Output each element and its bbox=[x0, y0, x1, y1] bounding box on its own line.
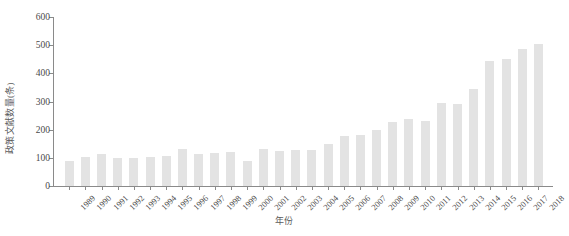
x-axis-tick-mark bbox=[199, 186, 200, 190]
x-axis-tick-label: 1990 bbox=[94, 193, 113, 212]
bar bbox=[291, 150, 300, 186]
x-axis-tick-mark bbox=[247, 186, 248, 190]
bar bbox=[81, 157, 90, 186]
y-axis-tick-label: 200 bbox=[36, 123, 50, 137]
x-axis-tick-label: 1998 bbox=[224, 193, 243, 212]
x-axis-tick-label: 1993 bbox=[143, 193, 162, 212]
x-axis-tick-label: 2005 bbox=[337, 193, 356, 212]
bar bbox=[356, 135, 365, 186]
bar bbox=[340, 136, 349, 186]
x-axis-tick-mark bbox=[506, 186, 507, 190]
plot-area: 0100200300400500600 19891990199119921993… bbox=[53, 17, 553, 186]
x-axis-title: 年份 bbox=[0, 214, 569, 227]
x-axis-tick-mark bbox=[360, 186, 361, 190]
x-axis-tick-label: 1996 bbox=[191, 193, 210, 212]
bar bbox=[162, 156, 171, 186]
x-axis-tick-mark bbox=[118, 186, 119, 190]
bar bbox=[404, 119, 413, 186]
x-axis-tick-mark bbox=[538, 186, 539, 190]
bar bbox=[129, 158, 138, 186]
x-axis-tick-label: 2006 bbox=[353, 193, 372, 212]
x-axis-tick-mark bbox=[441, 186, 442, 190]
x-axis-tick-mark bbox=[490, 186, 491, 190]
x-axis-tick-mark bbox=[458, 186, 459, 190]
bar bbox=[534, 44, 543, 186]
bar bbox=[421, 121, 430, 186]
x-axis-tick-label: 2018 bbox=[547, 193, 566, 212]
y-axis-tick-label: 0 bbox=[45, 179, 50, 193]
bar bbox=[324, 144, 333, 186]
bar-chart-figure: 政策文献数量(条) 0100200300400500600 1989199019… bbox=[0, 0, 569, 236]
y-axis-line bbox=[53, 17, 54, 186]
bar bbox=[307, 150, 316, 186]
bar bbox=[146, 157, 155, 186]
bar bbox=[388, 122, 397, 186]
y-axis-tick-label: 600 bbox=[36, 10, 50, 24]
bar bbox=[275, 151, 284, 186]
bar bbox=[372, 130, 381, 186]
bar bbox=[502, 59, 511, 186]
bar bbox=[113, 158, 122, 186]
y-axis-title: 政策文献数量(条) bbox=[0, 0, 18, 236]
x-axis-tick-label: 2003 bbox=[305, 193, 324, 212]
bar bbox=[469, 89, 478, 186]
bar bbox=[259, 149, 268, 186]
x-axis-tick-label: 1994 bbox=[159, 193, 178, 212]
x-axis-tick-mark bbox=[409, 186, 410, 190]
bar bbox=[453, 104, 462, 186]
x-axis-tick-mark bbox=[280, 186, 281, 190]
x-axis-tick-mark bbox=[263, 186, 264, 190]
x-axis-tick-label: 1991 bbox=[111, 193, 130, 212]
x-axis-tick-mark bbox=[182, 186, 183, 190]
x-axis-tick-label: 1997 bbox=[208, 193, 227, 212]
bar bbox=[178, 149, 187, 186]
bar bbox=[485, 61, 494, 186]
x-axis-tick-mark bbox=[474, 186, 475, 190]
bar bbox=[194, 154, 203, 186]
x-axis-tick-mark bbox=[393, 186, 394, 190]
bar bbox=[65, 161, 74, 186]
x-axis-tick-label: 1989 bbox=[78, 193, 97, 212]
bar bbox=[97, 154, 106, 186]
x-axis-tick-mark bbox=[425, 186, 426, 190]
bar bbox=[243, 161, 252, 186]
x-axis-tick-label: 2009 bbox=[402, 193, 421, 212]
x-axis-tick-label: 2011 bbox=[434, 193, 453, 212]
x-axis-tick-label: 2017 bbox=[531, 193, 550, 212]
x-axis-tick-label: 2014 bbox=[483, 193, 502, 212]
bar bbox=[518, 49, 527, 186]
x-axis-tick-label: 2012 bbox=[450, 193, 469, 212]
x-axis-tick-mark bbox=[166, 186, 167, 190]
x-axis-tick-mark bbox=[522, 186, 523, 190]
x-axis-tick-label: 2007 bbox=[369, 193, 388, 212]
x-axis-tick-label: 2002 bbox=[289, 193, 308, 212]
x-axis-tick-mark bbox=[134, 186, 135, 190]
x-axis-tick-label: 1992 bbox=[127, 193, 146, 212]
x-axis-tick-mark bbox=[215, 186, 216, 190]
x-axis-tick-mark bbox=[344, 186, 345, 190]
bar bbox=[226, 152, 235, 186]
x-axis-tick-mark bbox=[102, 186, 103, 190]
x-axis-line bbox=[53, 186, 553, 187]
x-axis-tick-mark bbox=[85, 186, 86, 190]
x-axis-tick-mark bbox=[150, 186, 151, 190]
bar bbox=[437, 103, 446, 186]
x-axis-tick-mark bbox=[328, 186, 329, 190]
x-axis-tick-mark bbox=[377, 186, 378, 190]
y-axis-tick-label: 400 bbox=[36, 66, 50, 80]
x-axis-tick-label: 2013 bbox=[466, 193, 485, 212]
x-axis-tick-label: 2016 bbox=[515, 193, 534, 212]
x-axis-tick-label: 2001 bbox=[272, 193, 291, 212]
x-axis-tick-label: 2015 bbox=[499, 193, 518, 212]
bar bbox=[210, 153, 219, 186]
x-axis-tick-mark bbox=[69, 186, 70, 190]
x-axis-tick-label: 2008 bbox=[386, 193, 405, 212]
x-axis-tick-mark bbox=[312, 186, 313, 190]
x-axis-tick-mark bbox=[296, 186, 297, 190]
x-axis-tick-label: 1999 bbox=[240, 193, 259, 212]
y-axis-tick-label: 300 bbox=[36, 95, 50, 109]
y-axis-tick-label: 500 bbox=[36, 38, 50, 52]
x-axis-tick-label: 2000 bbox=[256, 193, 275, 212]
y-axis-tick-label: 100 bbox=[36, 151, 50, 165]
x-axis-tick-mark bbox=[231, 186, 232, 190]
